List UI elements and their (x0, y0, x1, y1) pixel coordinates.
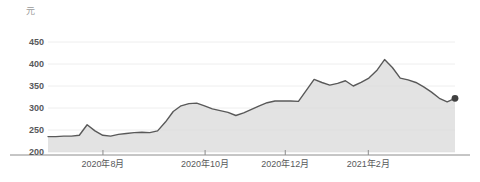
x-axis-tick-label: 2020年8月 (81, 159, 124, 170)
y-axis-tick-label: 200 (18, 147, 44, 157)
last-point-marker (452, 95, 459, 102)
series-area-fill (48, 60, 455, 152)
y-axis-tick-label: 450 (18, 37, 44, 47)
x-axis-tick-label: 2020年10月 (181, 159, 229, 170)
chart-canvas (0, 0, 480, 182)
x-axis-tick-label: 2021年2月 (347, 159, 390, 170)
x-axis-tick-label: 2020年12月 (261, 159, 309, 170)
y-axis-tick-label: 250 (18, 125, 44, 135)
y-axis-tick-label: 400 (18, 59, 44, 69)
y-axis-tick-label: 300 (18, 103, 44, 113)
y-axis-tick-label: 350 (18, 81, 44, 91)
price-line-chart: 元 200250300350400450 2020年8月2020年10月2020… (0, 0, 480, 182)
